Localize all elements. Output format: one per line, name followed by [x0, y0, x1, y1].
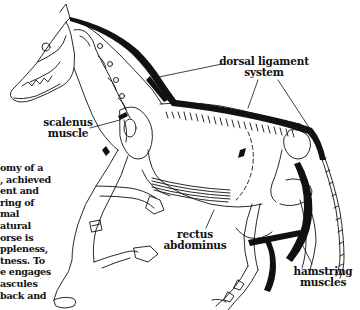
rectus-label-line2: abdominus [158, 240, 232, 251]
caption-line: tness. To [0, 255, 51, 267]
scalenus-label-line2: muscle [42, 128, 94, 139]
dorsal-ligament-band [70, 17, 326, 160]
rectus-leader [206, 210, 214, 228]
scalenus-muscle-label: scalenus muscle [42, 117, 94, 139]
dorsal-ligament-label-line2: system [214, 67, 314, 78]
caption-line: back and [0, 290, 51, 302]
hamstring-muscle-band [286, 162, 312, 262]
hamstring-muscles-label: hamstring muscles [290, 266, 356, 288]
caption-line: mal [0, 208, 51, 220]
caption-line: ring of [0, 197, 51, 209]
caption-line: atural [0, 220, 51, 232]
dorsal-ligament-label: dorsal ligament system [214, 56, 314, 78]
rectus-abdominus-label: rectus abdominus [158, 229, 232, 251]
dorsal-ligament-leader [154, 64, 222, 78]
figure-caption-fragment: omy of a , achieved ent and ring of mal … [0, 162, 51, 301]
caption-line: ppleness, [0, 243, 51, 255]
horse-anatomy-figure: dorsal ligament system scalenus muscle r… [0, 0, 360, 310]
caption-line: e engages [0, 266, 51, 278]
scalenus-leader [90, 120, 120, 128]
horse-skeleton-illustration [0, 0, 360, 310]
caption-line: orse is [0, 232, 51, 244]
caption-line: ent and [0, 185, 51, 197]
caption-line: , achieved [0, 174, 51, 186]
caption-line: ascules [0, 278, 51, 290]
hamstring-label-line2: muscles [290, 277, 356, 288]
caption-line: omy of a [0, 162, 51, 174]
head-outline [10, 4, 74, 102]
